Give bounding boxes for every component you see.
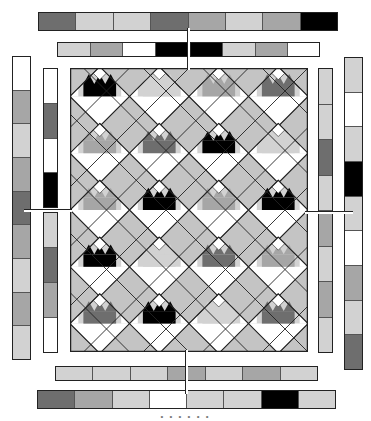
strip-segment bbox=[225, 13, 262, 30]
strip-segment bbox=[345, 230, 362, 265]
arrow-bottom bbox=[185, 350, 188, 394]
strip-segment bbox=[261, 391, 298, 408]
caption: • • • • • • bbox=[0, 412, 371, 421]
strip-segment bbox=[44, 138, 57, 173]
strip-segment bbox=[74, 391, 111, 408]
strip-segment bbox=[242, 367, 279, 380]
strip-segment bbox=[345, 334, 362, 369]
strip-segment bbox=[150, 13, 187, 30]
strip-segment bbox=[298, 391, 335, 408]
strip-segment bbox=[345, 300, 362, 335]
strip-segment bbox=[222, 43, 254, 56]
strip-segment bbox=[319, 69, 332, 104]
left-inner-border-strip-bottom bbox=[43, 212, 58, 353]
strip-segment bbox=[112, 391, 149, 408]
strip-segment bbox=[319, 281, 332, 317]
strip-segment bbox=[13, 292, 30, 326]
strip-segment bbox=[186, 391, 223, 408]
strip-segment bbox=[13, 224, 30, 258]
strip-segment bbox=[13, 191, 30, 225]
arrow-right bbox=[305, 211, 353, 214]
arrow-left bbox=[24, 209, 72, 212]
strip-segment bbox=[345, 265, 362, 300]
strip-segment bbox=[113, 13, 150, 30]
strip-segment bbox=[13, 123, 30, 157]
quilt-center bbox=[70, 68, 308, 352]
strip-segment bbox=[345, 58, 362, 92]
strip-segment bbox=[319, 317, 332, 353]
strip-segment bbox=[90, 43, 123, 56]
left-outer-border-strip bbox=[12, 56, 31, 360]
strip-segment bbox=[345, 126, 362, 161]
strip-segment bbox=[13, 258, 30, 292]
strip-segment bbox=[319, 246, 332, 282]
left-inner-border-strip-top bbox=[43, 68, 58, 208]
strip-segment bbox=[287, 43, 319, 56]
strip-segment bbox=[255, 43, 287, 56]
strip-segment bbox=[205, 367, 242, 380]
arrow-top bbox=[187, 28, 190, 70]
strip-segment bbox=[149, 391, 186, 408]
strip-segment bbox=[75, 13, 112, 30]
strip-segment bbox=[122, 43, 155, 56]
strip-segment bbox=[300, 13, 337, 30]
strip-segment bbox=[44, 247, 57, 282]
strip-segment bbox=[44, 69, 57, 103]
strip-segment bbox=[155, 43, 188, 56]
top-inner-border-strip-left bbox=[57, 42, 188, 57]
strip-segment bbox=[13, 57, 30, 90]
strip-segment bbox=[319, 210, 332, 246]
strip-segment bbox=[39, 13, 75, 30]
strip-segment bbox=[223, 391, 260, 408]
strip-segment bbox=[92, 367, 129, 380]
strip-segment bbox=[345, 92, 362, 127]
strip-segment bbox=[319, 175, 332, 211]
strip-segment bbox=[58, 43, 90, 56]
strip-segment bbox=[191, 43, 222, 56]
strip-segment bbox=[38, 391, 74, 408]
strip-segment bbox=[44, 213, 57, 247]
strip-segment bbox=[319, 104, 332, 140]
strip-segment bbox=[319, 139, 332, 175]
strip-segment bbox=[345, 161, 362, 196]
strip-segment bbox=[44, 282, 57, 317]
strip-segment bbox=[44, 103, 57, 138]
strip-segment bbox=[44, 172, 57, 207]
strip-segment bbox=[262, 13, 299, 30]
top-inner-border-strip-right bbox=[190, 42, 320, 57]
strip-segment bbox=[13, 325, 30, 359]
strip-segment bbox=[13, 90, 30, 124]
strip-segment bbox=[130, 367, 167, 380]
strip-segment bbox=[188, 13, 225, 30]
strip-segment bbox=[56, 367, 92, 380]
strip-segment bbox=[13, 157, 30, 191]
strip-segment bbox=[280, 367, 317, 380]
strip-segment bbox=[44, 317, 57, 352]
